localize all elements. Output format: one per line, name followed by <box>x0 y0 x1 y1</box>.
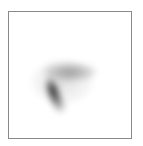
plot-frame <box>8 11 132 139</box>
